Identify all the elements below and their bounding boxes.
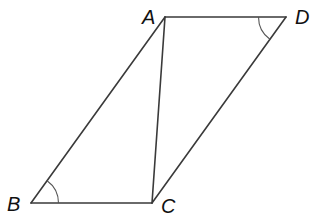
segment-AB (31, 17, 165, 203)
angle-mark-B (47, 181, 58, 203)
vertex-label-B: B (7, 193, 20, 215)
segment-CD (152, 17, 286, 203)
vertex-label-A: A (141, 6, 155, 28)
angle-mark-D (259, 17, 270, 39)
segment-AC (152, 17, 165, 203)
parallelogram-diagram: A B C D (0, 0, 315, 222)
vertex-label-C: C (161, 195, 176, 217)
vertex-label-D: D (295, 6, 309, 28)
